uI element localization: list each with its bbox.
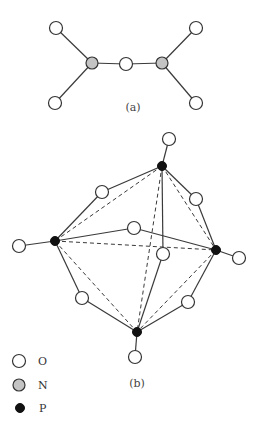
- bond-line: [188, 250, 216, 302]
- bond-line: [55, 63, 92, 103]
- phosphorus-atom-icon: [51, 237, 60, 246]
- figure-a-caption: (a): [125, 101, 140, 114]
- p-p-dashed-edge: [55, 166, 162, 241]
- bond-line: [55, 241, 82, 298]
- figure-b-molecule: (b): [13, 133, 246, 391]
- legend-item-o: O: [13, 355, 48, 369]
- oxygen-atom-icon: [190, 97, 203, 110]
- oxygen-atom-icon: [190, 22, 203, 35]
- legend-label: O: [38, 355, 47, 368]
- oxygen-atom-icon: [129, 351, 142, 364]
- legend: ONP: [13, 355, 49, 416]
- oxygen-atom-icon: [157, 248, 170, 261]
- diagram-canvas: (a) (b) ONP: [0, 0, 262, 428]
- p-p-dashed-edge: [137, 250, 216, 332]
- nitrogen-atom-icon: [13, 379, 25, 391]
- legend-label: P: [39, 402, 47, 415]
- phosphorus-atom-icon: [212, 246, 221, 255]
- bond-line: [162, 166, 196, 199]
- bond-line: [102, 166, 162, 192]
- bond-line: [137, 254, 163, 332]
- nitrogen-atom-icon: [156, 57, 168, 69]
- figure-b-caption: (b): [129, 377, 145, 390]
- phosphorus-atom-icon: [16, 404, 25, 413]
- oxygen-atom-icon: [50, 22, 63, 35]
- nitrogen-atom-icon: [86, 57, 98, 69]
- p-p-dashed-edge: [55, 241, 216, 250]
- oxygen-atom-icon: [13, 355, 26, 368]
- oxygen-atom-icon: [233, 252, 246, 265]
- bond-line: [55, 192, 102, 241]
- oxygen-atom-icon: [182, 296, 195, 309]
- legend-item-p: P: [16, 402, 48, 415]
- oxygen-atom-icon: [76, 292, 89, 305]
- oxygen-atom-icon: [163, 133, 176, 146]
- figure-a-atoms: [49, 22, 203, 110]
- bond-line: [55, 228, 134, 241]
- bond-line: [82, 298, 137, 332]
- phosphorus-atom-icon: [158, 162, 167, 171]
- oxygen-atom-icon: [190, 193, 203, 206]
- oxygen-atom-icon: [13, 240, 26, 253]
- phosphorus-atom-icon: [133, 328, 142, 337]
- oxygen-atom-icon: [96, 186, 109, 199]
- figure-b-bonds: [19, 139, 239, 357]
- bond-line: [162, 63, 196, 103]
- bond-line: [162, 166, 163, 254]
- bond-line: [196, 199, 216, 250]
- oxygen-atom-icon: [49, 97, 62, 110]
- bond-line: [56, 28, 92, 63]
- bond-line: [162, 28, 196, 63]
- legend-item-n: N: [13, 379, 48, 392]
- oxygen-atom-icon: [128, 222, 141, 235]
- p-p-dashed-edge: [55, 241, 137, 332]
- legend-label: N: [38, 379, 48, 392]
- figure-a-molecule: (a): [49, 22, 203, 115]
- bond-line: [137, 302, 188, 332]
- oxygen-atom-icon: [120, 58, 133, 71]
